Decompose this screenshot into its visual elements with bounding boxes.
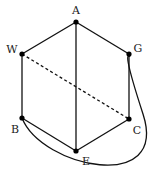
node-b (19, 115, 24, 120)
node-e (73, 148, 78, 153)
node-g (126, 51, 131, 56)
node-label-e: E (82, 156, 90, 167)
node-label-w: W (6, 44, 17, 55)
edge-b-g (22, 54, 146, 165)
node-label-g: G (134, 43, 143, 54)
node-label-b: B (11, 124, 19, 135)
node-label-c: C (133, 125, 141, 136)
graph-diagram: AWGBCE (0, 0, 155, 179)
node-c (126, 116, 131, 121)
graph-canvas (0, 0, 155, 179)
edge-b-e (22, 118, 76, 151)
edge-e-c (76, 119, 129, 151)
edge-a-w (22, 22, 76, 54)
node-a (73, 19, 78, 24)
edges-layer (22, 22, 146, 165)
node-w (19, 51, 24, 56)
node-label-a: A (72, 5, 80, 16)
edge-a-g (76, 22, 129, 54)
